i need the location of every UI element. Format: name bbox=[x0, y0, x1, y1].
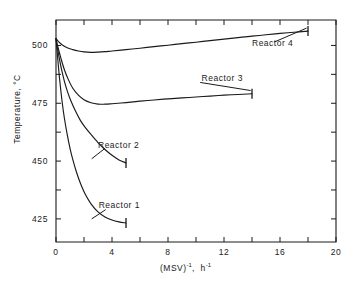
chart-figure: 048121620 425450475500 Reactor 1Reactor … bbox=[0, 0, 362, 290]
y-axis-title: Temperature, °C bbox=[12, 61, 22, 157]
series-curve-1 bbox=[56, 39, 126, 224]
y-tick-label: 425 bbox=[0, 214, 48, 224]
series-label-1: Reactor 1 bbox=[99, 200, 140, 210]
x-axis-title-exp2: -1 bbox=[206, 262, 211, 268]
y-tick-label: 475 bbox=[0, 98, 48, 108]
x-tick-label: 20 bbox=[331, 247, 342, 257]
series-curve-3 bbox=[56, 39, 252, 105]
x-axis-title-separator: , bbox=[192, 263, 195, 273]
series-label-3: Reactor 3 bbox=[202, 73, 243, 83]
series-label-2: Reactor 2 bbox=[98, 140, 139, 150]
x-tick-label: 0 bbox=[53, 247, 58, 257]
leader-line-3 bbox=[200, 82, 250, 90]
y-tick-label: 500 bbox=[0, 40, 48, 50]
data-curves bbox=[56, 26, 308, 228]
y-axis-ticks bbox=[56, 45, 336, 218]
y-tick-label: 450 bbox=[0, 156, 48, 166]
series-label-4: Reactor 4 bbox=[252, 38, 293, 48]
x-tick-label: 16 bbox=[275, 247, 286, 257]
x-tick-label: 4 bbox=[109, 247, 114, 257]
x-tick-label: 12 bbox=[219, 247, 230, 257]
x-axis-title: (MSV)-1, h-1 bbox=[160, 262, 211, 273]
label-leader-lines bbox=[92, 28, 307, 219]
x-tick-label: 8 bbox=[165, 247, 170, 257]
leader-line-1 bbox=[92, 210, 106, 219]
x-axis-title-base1: (MSV) bbox=[160, 263, 187, 273]
